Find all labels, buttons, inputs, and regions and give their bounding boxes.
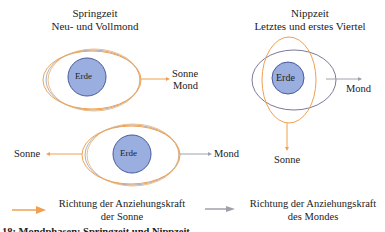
spring-top-moon-label: Mond	[173, 80, 198, 92]
spring-top-diagram	[43, 49, 170, 111]
neap-title-line1: Nippzeit	[240, 7, 380, 20]
legend-moon-line1: Richtung der Anziehungskraft	[243, 197, 383, 210]
neap-title: Nippzeit Letztes und erstes Viertel	[240, 7, 380, 33]
spring-bottom-sun-label: Sonne	[14, 148, 40, 160]
spring-top-earth-label: Erde	[75, 71, 92, 81]
spring-bottom-moon-label: Mond	[214, 148, 239, 160]
spring-title-line1: Springzeit	[40, 7, 150, 20]
spring-top-sun-label: Sonne	[172, 68, 198, 80]
neap-moon-label: Mond	[346, 83, 371, 95]
neap-earth-label: Erde	[276, 72, 295, 83]
figure-caption: 18: Mondphasen: Springzeit und Nippzeit	[2, 226, 190, 232]
spring-title-line2: Neu- und Vollmond	[40, 20, 150, 33]
legend-moon-line2: des Mondes	[243, 210, 383, 223]
legend-sun-line2: der Sonne	[52, 210, 192, 223]
legend-moon: Richtung der Anziehungskraft des Mondes	[243, 197, 383, 223]
legend-sun: Richtung der Anziehungskraft der Sonne	[52, 197, 192, 223]
legend-sun-line1: Richtung der Anziehungskraft	[52, 197, 192, 210]
neap-title-line2: Letztes und erstes Viertel	[240, 20, 380, 33]
neap-sun-label: Sonne	[274, 154, 300, 166]
spring-bottom-earth-label: Erde	[120, 148, 137, 158]
spring-title: Springzeit Neu- und Vollmond	[40, 7, 150, 33]
